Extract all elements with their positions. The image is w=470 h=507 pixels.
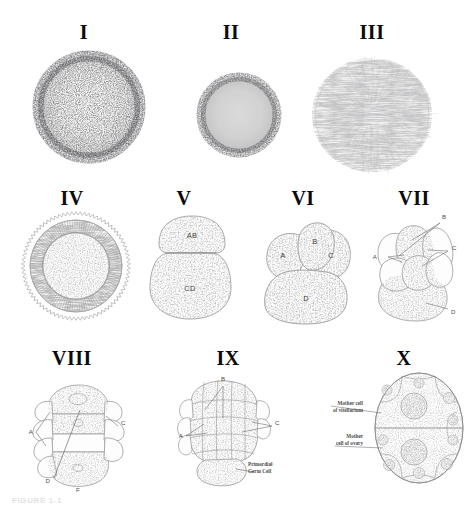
cell-label-f: F	[76, 486, 80, 493]
cell-label-d: D	[46, 477, 51, 484]
gonad-section-drawing	[369, 368, 469, 490]
ovum-iv-drawing	[18, 208, 136, 330]
blastomere-label-cd: CD	[184, 284, 195, 293]
panel-ii	[194, 70, 284, 170]
panel-numeral-10: X	[397, 348, 412, 368]
figure-plate: I	[0, 0, 470, 507]
ovum-ii-drawing	[194, 70, 284, 170]
blastomere-label-b: B	[312, 237, 317, 246]
two-cell-drawing: AB CD	[146, 206, 242, 326]
elongated-embryo-drawing: A C D F	[14, 368, 144, 493]
ovum-i-drawing	[34, 50, 144, 170]
four-cell-drawing: A B C D	[256, 206, 366, 328]
cell-label-b: B	[221, 375, 225, 382]
panel-iv	[18, 208, 136, 330]
cell-label-c: C	[275, 419, 280, 426]
panel-vi: A B C D	[256, 206, 366, 328]
cell-label-d: D	[451, 308, 456, 315]
panel-i	[34, 50, 144, 170]
panel-vii: B A C D	[366, 204, 470, 328]
panel-numeral-4: IV	[60, 188, 83, 208]
cell-label-b: B	[442, 213, 446, 220]
blastomere-label-c: C	[328, 251, 334, 260]
blastomere-label-a: A	[280, 251, 285, 260]
cell-label-c: C	[121, 419, 126, 426]
panel-numeral-8: VIII	[52, 348, 92, 368]
panel-iii	[306, 55, 441, 180]
panel-x	[369, 368, 469, 490]
blastomere-label-d: D	[303, 294, 309, 303]
ovum-iii-drawing	[306, 55, 441, 180]
panel-numeral-9: IX	[216, 348, 239, 368]
cell-label-c: C	[452, 244, 457, 251]
panel-numeral-3: III	[360, 22, 385, 42]
blastomere-label-ab: AB	[187, 231, 198, 240]
panel-numeral-5: V	[177, 188, 192, 208]
mother-cell-vitellarium-label: Mother cell of vitellarium	[303, 400, 363, 413]
panel-numeral-2: II	[223, 22, 240, 42]
panel-v: AB CD	[146, 206, 242, 326]
panel-numeral-1: I	[80, 22, 88, 42]
panel-numeral-6: VI	[291, 188, 314, 208]
figure-caption: FIGURE 1-1	[12, 496, 62, 505]
early-cleavage-drawing: B A C D	[366, 204, 470, 328]
primordial-germ-cell-label: Primordial Germ Cell	[248, 461, 300, 474]
cell-label-a: A	[373, 253, 378, 260]
panel-viii: A C D F	[14, 368, 144, 493]
mother-cell-ovary-label: Mother cell of ovary	[303, 433, 363, 446]
